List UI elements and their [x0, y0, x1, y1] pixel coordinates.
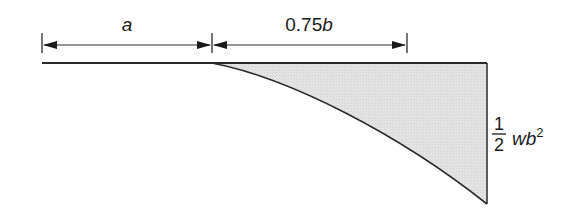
dimension-0-75b: [213, 41, 406, 49]
arrowhead-left-icon: [213, 41, 227, 49]
bending-moment-diagram: a 0.75b 1 2 wb2: [0, 0, 578, 217]
moment-expression: wb2: [512, 125, 544, 149]
dimension-label-a: a: [122, 14, 133, 35]
moment-label: 1 2 wb2: [492, 114, 544, 155]
arrowhead-right-icon: [392, 41, 406, 49]
arrowhead-left-icon: [43, 41, 57, 49]
dimension-a: [43, 41, 211, 49]
arrowhead-right-icon: [197, 41, 211, 49]
fraction-denominator: 2: [494, 135, 504, 155]
fraction-numerator: 1: [494, 114, 504, 134]
dimension-label-0-75b: 0.75b: [285, 14, 333, 35]
moment-area-fill: [212, 63, 487, 204]
